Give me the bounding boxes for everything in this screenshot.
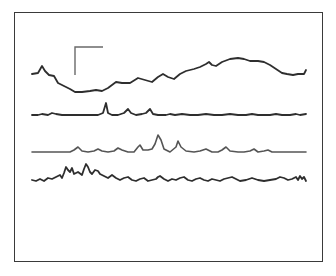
- scale-bar: [75, 47, 103, 75]
- trace-4: [32, 164, 306, 181]
- trace-2: [32, 103, 306, 115]
- trace-1: [32, 58, 306, 92]
- trace-3: [32, 135, 306, 152]
- trace-plot: [0, 0, 336, 276]
